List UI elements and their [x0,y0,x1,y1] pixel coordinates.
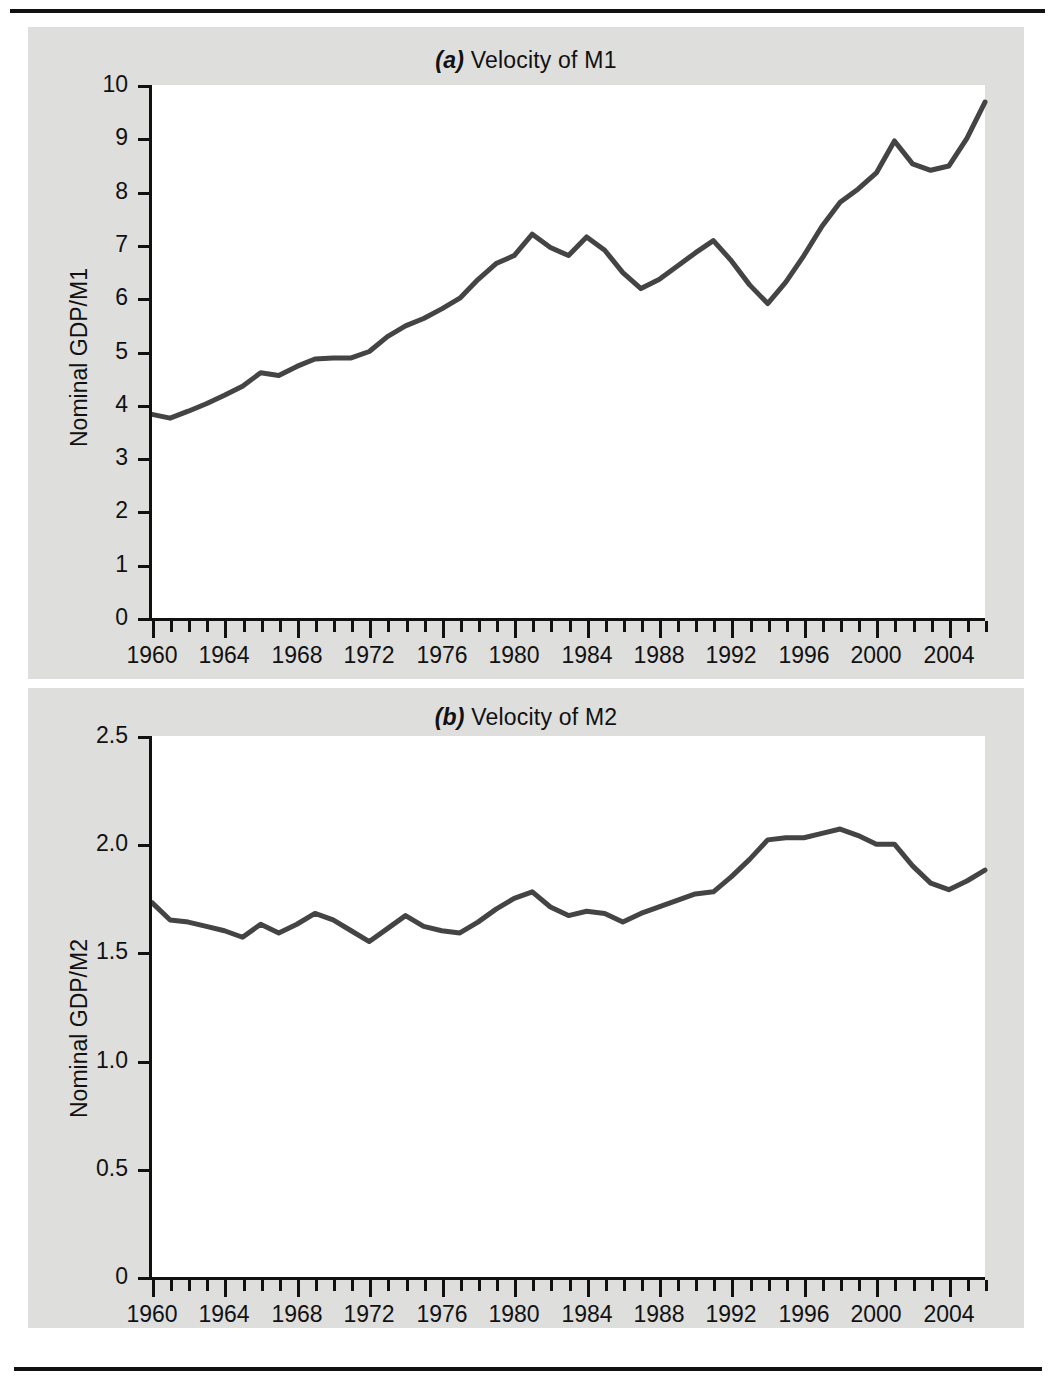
x-tick-minor [406,1280,409,1291]
chart-title-text-m2: Velocity of M2 [465,704,618,730]
x-tick-minor [677,1280,680,1291]
x-tick-minor [985,1280,988,1291]
x-tick-minor [677,621,680,632]
x-tick-minor [188,621,191,632]
y-tick [138,192,149,195]
y-tick-label: 3 [32,446,128,469]
x-tick-major [297,621,300,638]
y-axis-line [149,85,152,621]
x-tick-minor [333,621,336,632]
x-tick-minor [786,1280,789,1291]
y-tick-label: 2 [32,499,128,522]
x-tick-major [731,1280,734,1297]
x-tick-minor [768,1280,771,1291]
x-tick-minor [351,621,354,632]
x-tick-minor [387,1280,390,1291]
panel-letter-b: (b) [435,704,465,730]
x-tick-minor [550,621,553,632]
y-tick-label: 1 [32,553,128,576]
figure-page: (a) Velocity of M1 012345678910196019641… [0,0,1051,1391]
x-tick-minor [623,621,626,632]
x-tick-major [297,1280,300,1297]
y-tick [138,298,149,301]
x-tick-minor [822,1280,825,1291]
x-tick-major [369,621,372,638]
x-tick-minor [641,621,644,632]
x-tick-major [369,1280,372,1297]
x-tick-minor [713,621,716,632]
y-tick [138,844,149,847]
x-tick-minor [279,1280,282,1291]
x-tick-major [224,621,227,638]
x-tick-minor [424,621,427,632]
x-tick-minor [840,621,843,632]
x-tick-major [731,621,734,638]
y-tick-label: 0.5 [32,1157,128,1180]
x-tick-major [442,1280,445,1297]
x-tick-major [876,1280,879,1297]
x-tick-minor [550,1280,553,1291]
bottom-rule [14,1367,1042,1371]
y-tick [138,511,149,514]
x-tick-minor [532,621,535,632]
x-tick-minor [261,1280,264,1291]
y-tick [138,1169,149,1172]
x-tick-minor [315,621,318,632]
y-tick [138,565,149,568]
x-tick-minor [913,621,916,632]
y-tick [138,245,149,248]
x-tick-minor [569,621,572,632]
x-tick-minor [206,621,209,632]
x-tick-minor [822,621,825,632]
plot-area-m2 [152,736,985,1277]
x-tick-minor [496,621,499,632]
x-tick-major [876,621,879,638]
x-tick-minor [315,1280,318,1291]
x-tick-major [949,1280,952,1297]
x-tick-label: 2004 [904,644,994,667]
x-tick-minor [695,621,698,632]
y-tick [138,85,149,88]
chart-title-m2: (b) Velocity of M2 [28,704,1024,731]
y-tick [138,1277,149,1280]
x-tick-minor [387,621,390,632]
panel-letter-a: (a) [435,47,464,73]
y-axis-title-m2: Nominal GDP/M2 [68,939,91,1118]
x-tick-minor [913,1280,916,1291]
chart-title-m1: (a) Velocity of M1 [28,47,1024,74]
x-tick-minor [188,1280,191,1291]
x-tick-minor [351,1280,354,1291]
x-tick-minor [243,621,246,632]
x-tick-minor [858,1280,861,1291]
x-tick-minor [750,1280,753,1291]
x-tick-minor [605,1280,608,1291]
top-rule [10,9,1045,13]
y-tick [138,1061,149,1064]
y-tick-label: 2.5 [32,724,128,747]
x-tick-minor [967,621,970,632]
x-tick-minor [532,1280,535,1291]
x-tick-major [514,1280,517,1297]
x-tick-minor [478,621,481,632]
x-tick-minor [478,1280,481,1291]
x-tick-minor [858,621,861,632]
x-tick-minor [750,621,753,632]
x-tick-minor [460,1280,463,1291]
y-axis-title-m1: Nominal GDP/M1 [68,268,91,447]
x-tick-minor [206,1280,209,1291]
x-tick-minor [623,1280,626,1291]
x-tick-minor [569,1280,572,1291]
x-tick-minor [985,621,988,632]
x-tick-major [442,621,445,638]
x-tick-major [949,621,952,638]
y-tick [138,618,149,621]
x-tick-minor [406,621,409,632]
chart-title-text-m1: Velocity of M1 [464,47,617,73]
y-tick-label: 8 [32,180,128,203]
x-tick-major [152,1280,155,1297]
x-tick-minor [333,1280,336,1291]
chart-panel-velocity-m1: (a) Velocity of M1 012345678910196019641… [28,27,1024,679]
y-tick-label: 0 [32,1265,128,1288]
y-tick-label: 0 [32,606,128,629]
x-tick-major [804,1280,807,1297]
